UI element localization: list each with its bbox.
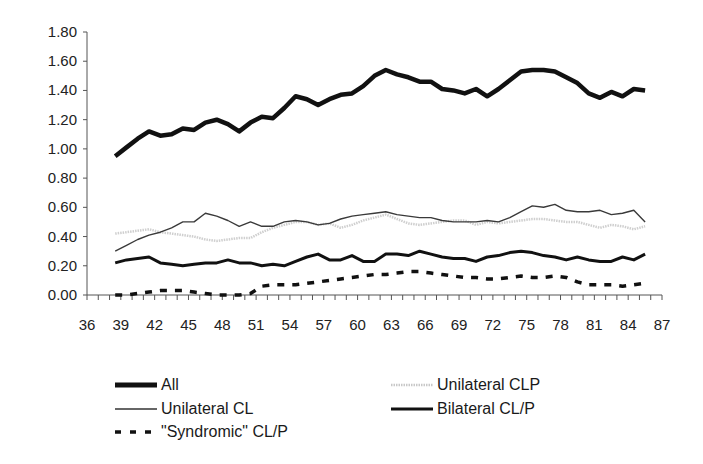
x-tick-label: 63 [383, 316, 400, 333]
x-tick-label: 42 [146, 316, 163, 333]
x-tick-label: 78 [552, 316, 569, 333]
x-tick-label: 69 [451, 316, 468, 333]
y-tick-label: 0.00 [48, 286, 77, 303]
y-tick-label: 1.60 [48, 52, 77, 69]
x-tick-label: 75 [518, 316, 535, 333]
x-tick-label: 57 [315, 316, 332, 333]
series-unilateral-clp [115, 215, 645, 241]
series-bilateral-cl-p [115, 251, 645, 266]
x-tick-label: 54 [282, 316, 299, 333]
x-tick-label: 87 [654, 316, 671, 333]
series-layer [115, 70, 645, 295]
y-tick-label: 1.00 [48, 140, 77, 157]
x-tick-label: 45 [180, 316, 197, 333]
x-tick-label: 48 [214, 316, 231, 333]
y-tick-label: 0.60 [48, 198, 77, 215]
x-tick-label: 36 [79, 316, 96, 333]
x-axis: 363942454851545760636669727578818487 [79, 295, 671, 333]
x-tick-label: 81 [586, 316, 603, 333]
x-tick-label: 51 [248, 316, 265, 333]
x-tick-label: 66 [417, 316, 434, 333]
line-chart: 0.000.200.400.600.801.001.201.401.601.80… [0, 0, 703, 464]
x-tick-label: 72 [485, 316, 502, 333]
y-tick-label: 1.40 [48, 81, 77, 98]
series-all [115, 70, 645, 156]
x-tick-label: 39 [112, 316, 129, 333]
y-tick-label: 1.80 [48, 23, 77, 40]
x-tick-label: 84 [620, 316, 637, 333]
series-syndromic-cl-p [115, 272, 645, 295]
x-tick-label: 60 [349, 316, 366, 333]
y-tick-label: 0.40 [48, 228, 77, 245]
y-tick-label: 0.80 [48, 169, 77, 186]
y-axis: 0.000.200.400.600.801.001.201.401.601.80 [48, 23, 87, 303]
y-tick-label: 1.20 [48, 111, 77, 128]
series-unilateral-cl [115, 204, 645, 251]
y-tick-label: 0.20 [48, 257, 77, 274]
